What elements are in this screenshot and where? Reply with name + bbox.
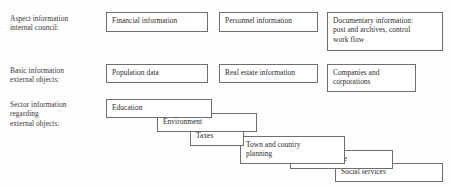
box-personnel-information[interactable]: Personnel information (219, 12, 318, 32)
box-population-data[interactable]: Population data (106, 64, 208, 83)
box-documentary-information[interactable]: Documentary information: post and archiv… (327, 12, 443, 51)
box-town-and-country-planning[interactable]: Town and country planning (240, 136, 345, 164)
box-real-estate-information[interactable]: Real estate information (219, 64, 318, 83)
box-financial-information[interactable]: Financial information (106, 12, 208, 32)
row-label-sector-information: Sector information regarding external ob… (10, 100, 102, 128)
box-companies-and-corporations[interactable]: Companies and corporations (327, 64, 416, 92)
row-label-aspect-information: Aspect information internal council: (10, 14, 102, 33)
box-education[interactable]: Education (106, 99, 212, 118)
diagram-canvas: Aspect information internal council: Fin… (0, 0, 452, 188)
row-label-basic-information: Basic information external objects: (10, 66, 102, 85)
